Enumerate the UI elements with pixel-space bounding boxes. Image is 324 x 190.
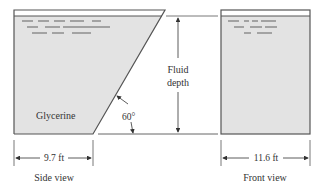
side-width-label: 9.7 ft: [44, 153, 64, 163]
front-view-tank: [221, 10, 310, 134]
fluid-depth-label-line1: Fluid: [167, 64, 188, 75]
angle-label: 60°: [122, 112, 136, 122]
angle-indicator: 60°: [117, 96, 136, 133]
front-width-dimension: 11.6 ft: [221, 140, 310, 166]
side-view-caption: Side view: [34, 172, 74, 183]
fluid-depth-label-line2: depth: [167, 77, 189, 88]
glycerine-fluid-front: [221, 16, 310, 134]
side-view-tank: Glycerine: [14, 10, 165, 134]
front-view-caption: Front view: [243, 172, 287, 183]
glycerine-label: Glycerine: [36, 110, 76, 121]
front-width-label: 11.6 ft: [254, 153, 279, 163]
fluid-depth-dimension: Fluid depth: [167, 18, 189, 132]
side-width-dimension: 9.7 ft: [14, 140, 93, 166]
tank-diagram: Glycerine 60° Fluid depth 9.7 ft: [0, 0, 324, 190]
